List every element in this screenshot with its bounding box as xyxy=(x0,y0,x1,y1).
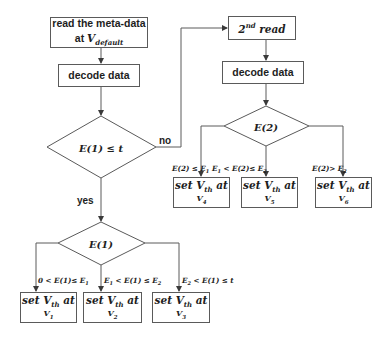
set-vth-v2-box: set Vth at V2 xyxy=(83,292,142,323)
set-vth-v3-box: set Vth at V3 xyxy=(152,292,210,323)
set-vth-v6-box: set Vth at V6 xyxy=(315,177,372,208)
decode-data-box-right: decode data xyxy=(222,61,304,84)
read-metadata-box: read the meta-data at Vdefault xyxy=(50,17,148,48)
read-metadata-line2: at Vdefault xyxy=(75,29,123,46)
cond-e2-low: E(2) ≤ E1 xyxy=(172,164,209,174)
second-read-box: 2nd read xyxy=(228,16,296,40)
set-vth-v4-box: set Vth at V4 xyxy=(173,177,230,208)
second-read-label: 2nd read xyxy=(238,22,285,35)
cond-e2-high: E(2)> E2 xyxy=(312,164,347,174)
cond-e1-low: 0 < E(1)≤ E1 xyxy=(38,276,89,286)
cond-e2-mid: E1 < E(2)≤ E2 xyxy=(212,164,267,174)
edge-no xyxy=(156,28,227,147)
set-vth-v5-box: set Vth at V5 xyxy=(241,177,298,208)
set-vth-v1-box: set Vth at V1 xyxy=(20,292,77,323)
cond-e1-high: E2 < E(1) ≤ t xyxy=(182,276,234,286)
edge-label-yes: yes xyxy=(77,195,94,206)
cond-e1-mid: E1 < E(1) ≤ E2 xyxy=(104,276,161,286)
decision-1-label: E(1) ≤ t xyxy=(79,143,123,154)
decode-data-box-left: decode data xyxy=(58,64,140,87)
decision-2-label: E(2) xyxy=(254,122,278,133)
decision-e1-label: E(1) xyxy=(89,239,113,250)
edge-label-no: no xyxy=(159,135,171,146)
read-metadata-line1: read the meta-data xyxy=(52,18,145,29)
